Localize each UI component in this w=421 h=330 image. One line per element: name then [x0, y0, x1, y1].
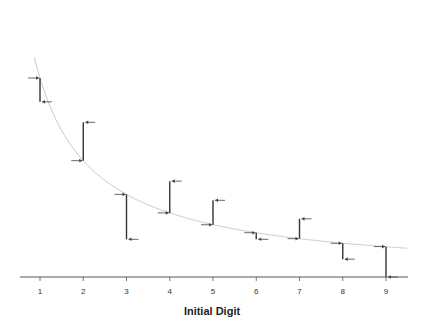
- x-tick-label: 8: [341, 287, 346, 296]
- arrow-out-icon: [302, 217, 312, 221]
- arrow-out-icon: [42, 100, 52, 104]
- x-tick-label: 2: [81, 287, 86, 296]
- benford-chart: 123456789 Initial Digit: [0, 0, 421, 330]
- arrow-in-icon: [28, 76, 39, 80]
- arrow-in-icon: [374, 245, 385, 249]
- x-tick-label: 1: [38, 287, 43, 296]
- arrow-out-icon: [129, 238, 139, 242]
- deviation-segments: [28, 76, 398, 279]
- x-axis-label: Initial Digit: [184, 305, 241, 317]
- arrow-out-icon: [172, 179, 182, 183]
- x-tick-label: 6: [254, 287, 259, 296]
- arrow-out-icon: [85, 121, 95, 125]
- x-ticks: 123456789: [38, 277, 389, 296]
- expected-curve: [34, 57, 407, 248]
- x-tick-label: 4: [168, 287, 173, 296]
- x-tick-label: 7: [297, 287, 302, 296]
- arrow-out-icon: [258, 238, 268, 242]
- x-tick-label: 9: [384, 287, 389, 296]
- x-tick-label: 3: [124, 287, 129, 296]
- expected-curve-path: [34, 57, 407, 248]
- arrow-out-icon: [345, 257, 355, 261]
- arrow-in-icon: [71, 159, 82, 163]
- x-tick-label: 5: [211, 287, 216, 296]
- arrow-out-icon: [215, 199, 225, 203]
